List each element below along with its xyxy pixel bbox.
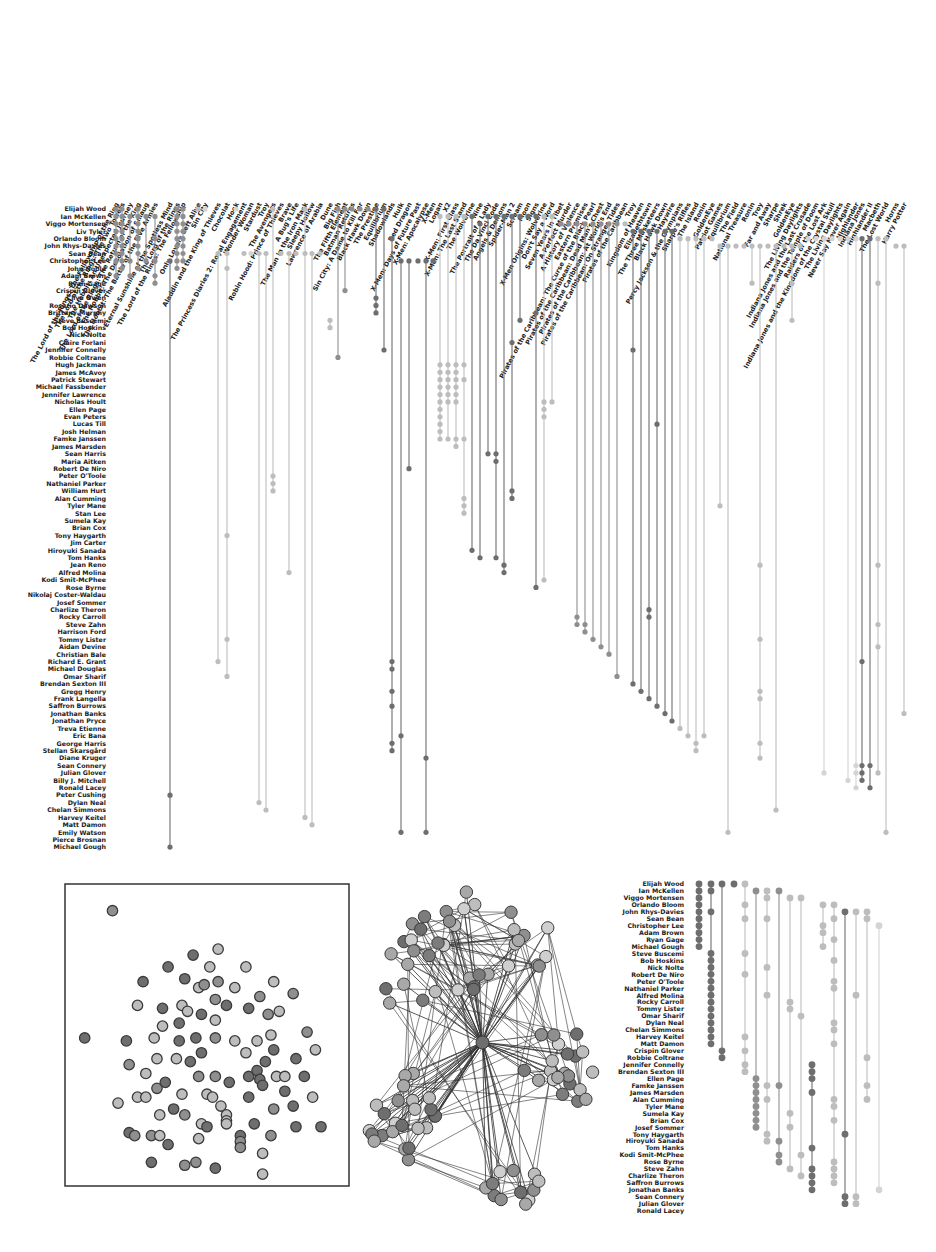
appearance-dot [757, 741, 762, 746]
appearance-dot [256, 800, 261, 805]
appearance-dot [415, 258, 420, 263]
appearance-dot [445, 370, 450, 375]
appearance-dot [864, 1096, 871, 1103]
appearance-dot [829, 236, 834, 241]
network-node [546, 1055, 558, 1067]
appearance-dot [867, 785, 872, 790]
appearance-dot [708, 1020, 715, 1027]
appearance-dot [517, 318, 522, 323]
appearance-dot [119, 258, 124, 263]
network-node [378, 1108, 390, 1120]
movie-column [725, 244, 730, 835]
appearance-dot [423, 830, 428, 835]
network-node [398, 978, 410, 990]
movie-column [813, 236, 818, 241]
appearance-dot [293, 251, 298, 256]
appearance-dot [742, 915, 749, 922]
appearance-dot [821, 770, 826, 775]
actor-label: Michael Fassbender [36, 383, 107, 390]
actor-label: Omar Sharif [641, 1012, 684, 1019]
scatter-point [174, 1018, 184, 1028]
appearance-dot [327, 318, 332, 323]
movie-column [614, 221, 619, 679]
actor-label: Treva Etienne [57, 725, 106, 732]
appearance-dot [757, 563, 762, 568]
appearance-dot [696, 929, 703, 936]
appearance-dot [453, 399, 458, 404]
movie-column [876, 922, 883, 1193]
movie-column [493, 214, 498, 561]
appearance-dot [696, 888, 703, 895]
appearance-dot [693, 748, 698, 753]
movie-column [317, 251, 322, 256]
appearance-dot [373, 303, 378, 308]
actor-label: Alfred Molina [59, 569, 107, 576]
appearance-dot [717, 503, 722, 508]
appearance-dot [533, 585, 538, 590]
actor-label: Sean Bean [68, 250, 106, 257]
appearance-dot [742, 1068, 749, 1075]
appearance-dot [606, 221, 611, 226]
network-node [385, 948, 397, 960]
appearance-dot [174, 221, 179, 226]
scatter-point [269, 1045, 279, 1055]
appearance-dot [630, 347, 635, 352]
actor-label: Maria Aitken [61, 458, 106, 465]
movie-column [389, 236, 394, 753]
actor-label: Chelan Simmons [47, 806, 106, 813]
appearance-dot [733, 244, 738, 249]
movie-column [606, 221, 611, 657]
appearance-dot [764, 992, 771, 999]
scatter-point [79, 1033, 89, 1043]
appearance-dot [135, 266, 140, 271]
scatter-point [138, 977, 148, 987]
appearance-dot [461, 436, 466, 441]
network-node [443, 915, 455, 927]
appearance-dot [270, 488, 275, 493]
appearance-dot [776, 1159, 783, 1166]
appearance-dot [453, 370, 458, 375]
appearance-dot [309, 822, 314, 827]
appearance-dot [853, 770, 858, 775]
scatter-point [185, 1056, 195, 1066]
movie-column [696, 881, 703, 950]
appearance-dot [342, 288, 347, 293]
appearance-dot [437, 407, 442, 412]
appearance-dot [867, 236, 872, 241]
movie-column [677, 236, 682, 731]
movie-column [415, 258, 420, 263]
appearance-dot [461, 503, 466, 508]
appearance-dot [335, 206, 340, 211]
scatter-point [230, 1036, 240, 1046]
movie-column [853, 236, 858, 790]
movie-column [787, 895, 794, 1173]
appearance-dot [831, 1117, 838, 1124]
appearance-dot [646, 607, 651, 612]
appearance-dot [381, 347, 386, 352]
appearance-dot [776, 1138, 783, 1145]
movie-column [302, 206, 307, 820]
actor-label: Matt Damon [62, 821, 106, 828]
actor-label: Steve Zahn [66, 621, 106, 628]
appearance-dot [152, 273, 157, 278]
actor-label: Saffron Burrows [627, 1179, 685, 1186]
movie-column [883, 236, 888, 835]
appearance-dot [113, 221, 118, 226]
appearance-dot [373, 295, 378, 300]
appearance-dot [789, 281, 794, 286]
appearance-dot [809, 1145, 816, 1152]
actor-label: Tom Hanks [646, 1144, 685, 1151]
appearance-dot [853, 1200, 860, 1207]
network-node [520, 1198, 532, 1210]
network-node [418, 910, 430, 922]
appearance-dot [741, 244, 746, 249]
appearance-dot [558, 221, 563, 226]
scatter-point [182, 1006, 192, 1016]
network-node [533, 1175, 545, 1187]
scatter-point [316, 1122, 326, 1132]
appearance-dot [875, 236, 880, 241]
appearance-dot [215, 251, 220, 256]
scatter-point [224, 1077, 234, 1087]
actor-label: Patrick Stewart [51, 376, 106, 383]
appearance-dot [708, 971, 715, 978]
